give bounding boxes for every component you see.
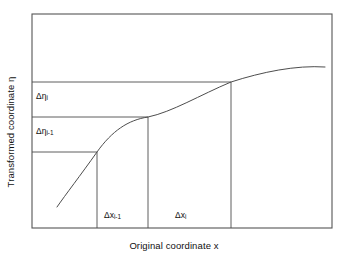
delta-eta-i-minus-1-subscript: i-1 [46,129,53,136]
delta-eta-i-minus-1-label: Δηi-1 [36,127,54,137]
delta-x-i-minus-1-label: Δxi-1 [104,211,121,221]
delta-x-i-symbol: Δx [175,210,185,220]
delta-eta-i-label: Δηi [36,92,48,102]
delta-eta-i-subscript: i [46,94,47,101]
delta-eta-i-symbol: Δη [36,91,46,101]
axes-frame [32,14,332,228]
delta-x-i-label: Δxi [175,211,186,221]
x-axis-title: Original coordinate x [0,241,348,251]
y-axis-title: Transformed coordinate η [6,0,22,264]
delta-x-i-subscript: i [185,213,186,220]
coordinate-transformation-figure: Transformed coordinate η Original coordi… [0,0,348,264]
delta-x-i-minus-1-symbol: Δx [104,210,114,220]
delta-eta-i-minus-1-symbol: Δη [36,126,46,136]
delta-x-i-minus-1-subscript: i-1 [114,213,121,220]
